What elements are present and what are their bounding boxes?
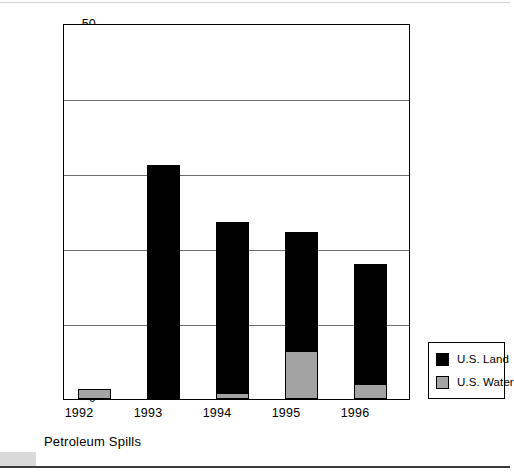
- x-tick-label-1993: 1993: [118, 406, 178, 420]
- bottom-divider: [0, 466, 510, 468]
- x-tick-label-1994: 1994: [187, 406, 247, 420]
- x-tick-label-1992: 1992: [49, 406, 109, 420]
- bar-1996-land: [354, 264, 387, 385]
- bottom-left-marker: [0, 452, 36, 466]
- legend-swatch-land-icon: [436, 353, 449, 366]
- legend-item-us-land: U.S. Land: [436, 351, 509, 367]
- x-tick-label-1995: 1995: [256, 406, 316, 420]
- legend-item-us-water: U.S. Water: [436, 374, 514, 390]
- bar-1995-land: [285, 232, 318, 351]
- plot-area: [63, 24, 410, 400]
- chart-caption: Petroleum Spills: [44, 434, 141, 450]
- bar-1993-land: [147, 165, 180, 399]
- gridline-30: [64, 175, 409, 176]
- bar-1996-water: [354, 384, 387, 399]
- bar-1995-water: [285, 351, 318, 399]
- x-tick-label-1996: 1996: [325, 406, 385, 420]
- bar-1994-water: [216, 393, 249, 399]
- legend-label-us-water: U.S. Water: [457, 376, 514, 389]
- bar-1994-land: [216, 222, 249, 394]
- legend-label-us-land: U.S. Land: [457, 353, 509, 366]
- bar-1992-water: [78, 389, 111, 399]
- legend-swatch-water-icon: [436, 376, 449, 389]
- gridline-40: [64, 100, 409, 101]
- chart-legend: U.S. Land U.S. Water: [428, 342, 505, 399]
